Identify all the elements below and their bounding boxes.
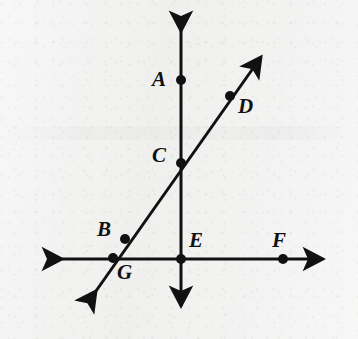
point-c-dot: [176, 158, 186, 168]
point-a-label: A: [152, 69, 166, 90]
point-b-dot: [120, 234, 130, 244]
point-d-dot: [225, 91, 235, 101]
point-e-label: E: [189, 230, 203, 251]
point-a-dot: [176, 75, 186, 85]
lines-group: [62, 31, 323, 306]
point-f-dot: [278, 254, 288, 264]
point-c-label: C: [152, 145, 166, 166]
point-d-label: D: [238, 96, 253, 117]
point-b-label: B: [97, 219, 111, 240]
geometry-canvas: [0, 0, 358, 339]
point-g-label: G: [117, 262, 132, 283]
point-e-dot: [176, 254, 186, 264]
point-f-label: F: [272, 230, 286, 251]
geometry-figure: ABCDEFG: [0, 0, 358, 339]
